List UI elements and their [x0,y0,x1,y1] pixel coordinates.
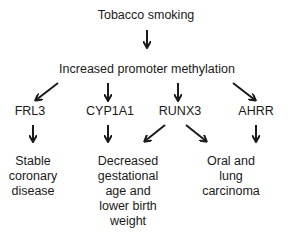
node-gene-cyp1a1: CYP1A1 [86,104,134,119]
outcome-line: lower birth [98,199,158,214]
outcome-line: carcinoma [202,184,260,199]
node-outcome-stable-coronary-disease: Stable coronary disease [9,154,58,199]
outcome-line: gestational [98,169,158,184]
arrow-methylation-to-frl3 [36,83,58,100]
arrow-methylation-to-ahrr [233,83,255,100]
outcome-line: disease [9,184,58,199]
outcome-line: Decreased [98,154,158,169]
node-outcome-oral-lung-carcinoma: Oral and lung carcinoma [202,154,260,199]
node-outcome-decreased-gestational-age: Decreased gestational age and lower birt… [98,154,158,229]
arrow-runx3-to-gestational [145,125,165,141]
node-tobacco-smoking: Tobacco smoking [98,8,195,23]
outcome-line: Oral and lung [202,154,260,184]
outcome-line: age and [98,184,158,199]
outcome-line: weight [98,214,158,229]
outcome-line: coronary [9,169,58,184]
outcome-line: Stable [9,154,58,169]
node-gene-ahrr: AHRR [238,104,273,119]
node-gene-frl3: FRL3 [15,104,46,119]
node-increased-promoter-methylation: Increased promoter methylation [59,62,235,77]
node-gene-runx3: RUNX3 [159,104,201,119]
arrow-runx3-to-carcinoma [186,125,206,141]
